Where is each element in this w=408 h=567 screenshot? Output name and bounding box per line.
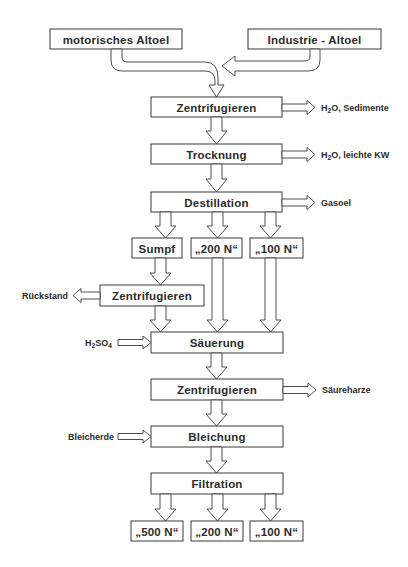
flow-arrow-down	[206, 447, 227, 473]
step-label-acidification: Säuerung	[190, 337, 245, 349]
side-label-acid-resin: Säureharze	[322, 385, 371, 395]
side-label-gas-oil: Gasoel	[321, 198, 351, 208]
side-arrow-centrifuge-1-out	[282, 101, 315, 115]
fraction-box-100n: „100 N“	[250, 238, 303, 258]
input-label-industrial-oil: Industrie - Altoel	[268, 34, 362, 46]
step-label-filtration: Filtration	[191, 478, 242, 490]
input-box-industrial-oil: Industrie - Altoel	[248, 29, 381, 49]
side-label-sulfuric-acid: H2SO4	[85, 338, 112, 349]
step-box-filtration: Filtration	[151, 473, 283, 494]
flow-arrow-down	[150, 306, 171, 332]
product-arrow-200n	[207, 494, 228, 521]
product-label-200n: „200 N“	[195, 526, 239, 538]
step-box-centrifuge-1: Zentrifugieren	[151, 97, 282, 117]
side-arrow-acid-in	[118, 336, 151, 349]
branch-arrow-200n	[207, 212, 228, 238]
fraction-label-sump: Sumpf	[139, 243, 176, 255]
fraction-label-200n: „200 N“	[195, 243, 239, 255]
long-arrow-100n	[260, 258, 281, 332]
product-label-500n: „500 N“	[135, 526, 179, 538]
flow-arrow-down	[206, 117, 227, 144]
side-label-residue: Rückstand	[22, 291, 68, 301]
merge-arrow-motor-oil	[111, 49, 224, 97]
step-box-distillation: Destillation	[151, 192, 282, 212]
input-box-motor-oil: motorisches Altoel	[50, 29, 182, 49]
side-arrow-residue-out	[73, 289, 100, 303]
fraction-box-200n: „200 N“	[191, 238, 242, 258]
product-box-100n: „100 N“	[250, 521, 303, 541]
side-arrow-distillation-out	[282, 196, 315, 210]
side-arrow-drying-out	[282, 148, 315, 162]
step-label-centrifuge-1: Zentrifugieren	[176, 102, 256, 114]
branch-arrow-sump	[155, 212, 176, 238]
step-label-distillation: Destillation	[184, 197, 248, 209]
fraction-label-100n: „100 N“	[255, 243, 299, 255]
side-label-h2o-sediments: H2O, Sedimente	[321, 103, 389, 114]
step-label-drying: Trocknung	[186, 149, 247, 161]
branch-arrow-100n	[260, 212, 281, 238]
side-arrow-bleaching-earth-in	[118, 430, 151, 443]
side-label-h2o-light-hc: H2O, leichte KW	[321, 150, 390, 161]
step-box-centrifuge-3: Zentrifugieren	[151, 379, 283, 400]
product-arrow-100n	[260, 494, 281, 521]
product-arrow-500n	[155, 494, 176, 521]
step-label-centrifuge-3: Zentrifugieren	[177, 384, 257, 396]
input-label-motor-oil: motorisches Altoel	[63, 34, 170, 46]
side-arrow-acid-resin-out	[283, 383, 316, 397]
step-box-drying: Trocknung	[151, 144, 282, 164]
product-box-200n: „200 N“	[191, 521, 243, 541]
step-box-acidification: Säuerung	[151, 332, 283, 353]
merge-arrow-industrial-oil	[222, 49, 320, 76]
flow-arrow-down	[206, 353, 227, 379]
flow-arrow-down	[206, 400, 227, 426]
step-box-bleaching: Bleichung	[151, 426, 283, 447]
process-flowchart: motorisches Altoel Industrie - Altoel Ze…	[0, 0, 408, 567]
step-box-centrifuge-2: Zentrifugieren	[100, 285, 204, 306]
product-label-100n: „100 N“	[255, 526, 299, 538]
flow-arrow-down	[206, 164, 227, 192]
side-label-bleaching-earth: Bleicherde	[68, 432, 114, 442]
product-box-500n: „500 N“	[131, 521, 183, 541]
long-arrow-200n	[207, 258, 228, 332]
flow-arrow-down	[150, 258, 171, 285]
step-label-centrifuge-2: Zentrifugieren	[112, 290, 192, 302]
step-label-bleaching: Bleichung	[188, 431, 245, 443]
fraction-box-sump: Sumpf	[132, 238, 182, 258]
